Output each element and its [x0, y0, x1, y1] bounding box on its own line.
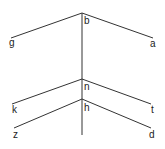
branch-n-k [12, 79, 82, 104]
leaf-label-a: a [150, 39, 156, 49]
branch-b-g [11, 13, 82, 38]
leaf-label-g: g [9, 38, 15, 48]
node-label-n: n [84, 82, 90, 92]
branch-n-t [82, 79, 151, 104]
branch-h-d [82, 99, 151, 128]
leaf-label-d: d [149, 130, 155, 140]
branch-h-z [14, 99, 82, 128]
leaf-label-z: z [13, 130, 18, 140]
tree-diagram [0, 0, 165, 149]
leaf-label-k: k [12, 105, 17, 115]
leaf-label-t: t [151, 105, 154, 115]
node-label-b: b [84, 16, 90, 26]
branch-b-a [82, 13, 153, 38]
node-label-h: h [84, 103, 90, 113]
